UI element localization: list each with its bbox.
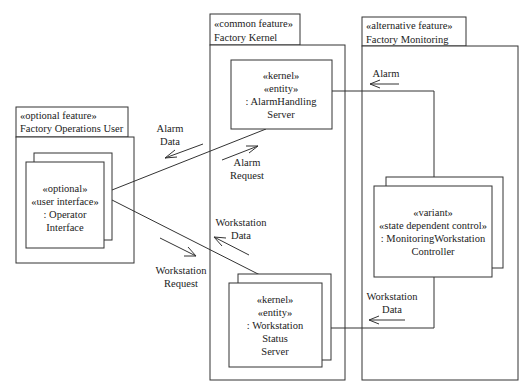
object-line: «variant» [413, 207, 453, 218]
message-label-line: Workstation [366, 291, 418, 302]
message-label-line: Data [231, 230, 251, 241]
package-stereotype: «optional feature» [20, 110, 97, 121]
object-line: «entity» [258, 307, 292, 318]
package-name: Factory Kernel [214, 32, 277, 43]
object-line: «entity» [264, 83, 298, 94]
package-name: Factory Operations User [20, 123, 124, 134]
message-label-line: Alarm [373, 68, 400, 79]
object-workstation-status-server[interactable]: «kernel» «entity» : Workstation Status S… [229, 274, 331, 367]
object-line: Server [261, 346, 289, 357]
object-line: : Operator [44, 209, 87, 220]
package-name: Factory Monitoring [366, 34, 449, 45]
message-workstation-request: Workstation Request [155, 238, 207, 289]
object-line: Server [267, 109, 295, 120]
object-line: Interface [46, 222, 84, 233]
arrow-icon [160, 238, 196, 256]
object-box [374, 186, 492, 277]
object-monitoring-workstation-controller[interactable]: «variant» «state dependent control» : Mo… [374, 177, 503, 277]
object-line: : MonitoringWorkstation [381, 233, 486, 244]
object-line: «kernel» [257, 294, 294, 305]
message-label-line: Request [230, 170, 264, 181]
package-stereotype: «common feature» [214, 18, 293, 29]
object-line: «user interface» [31, 196, 98, 207]
object-line: «kernel» [263, 70, 300, 81]
object-line: «optional» [43, 183, 88, 194]
object-line: Status [262, 333, 288, 344]
object-line: «state dependent control» [379, 220, 487, 231]
message-alarm-data: Alarm Data [157, 123, 203, 158]
object-alarm-handling-server[interactable]: «kernel» «entity» : AlarmHandling Server [231, 60, 332, 129]
object-line: Controller [411, 246, 455, 257]
object-operator-interface[interactable]: «optional» «user interface» : Operator I… [26, 153, 112, 248]
object-line: : Workstation [247, 320, 304, 331]
message-label-line: Alarm [234, 157, 261, 168]
message-label-line: Data [160, 136, 180, 147]
package-stereotype: «alternative feature» [366, 20, 453, 31]
diagram-canvas: «optional feature» Factory Operations Us… [0, 0, 528, 390]
message-label-line: Request [164, 278, 198, 289]
object-line: : AlarmHandling [246, 96, 318, 107]
message-label-line: Workstation [155, 265, 207, 276]
message-label-line: Data [382, 304, 402, 315]
message-label-line: Alarm [157, 123, 184, 134]
message-label-line: Workstation [215, 217, 267, 228]
